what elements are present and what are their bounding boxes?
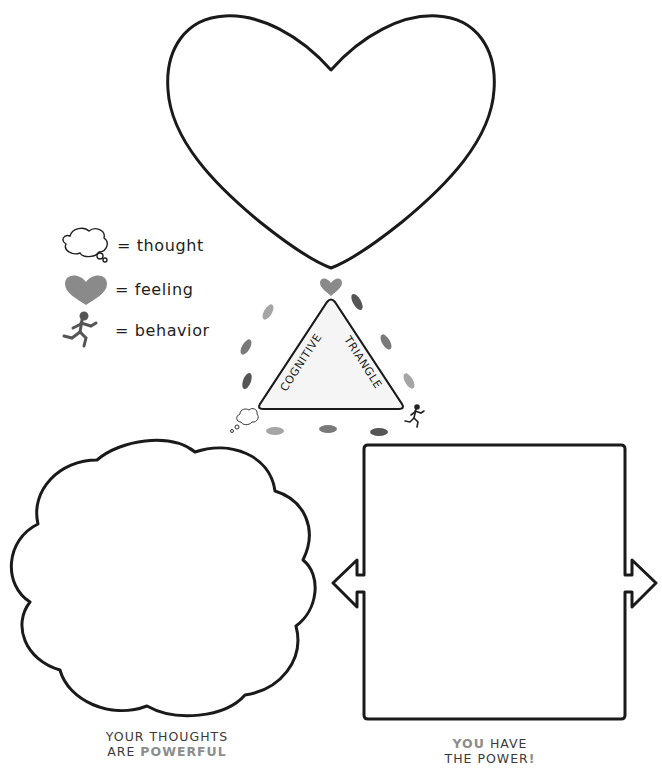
worksheet-canvas [0, 0, 662, 777]
behavior-box-area[interactable] [333, 445, 656, 719]
legend-heart-icon [65, 275, 107, 305]
thought-cloud-area[interactable] [11, 440, 315, 715]
caption-thoughts-prefix: ARE [107, 744, 140, 759]
caption-power-text: THE POWER [445, 751, 529, 766]
caption-power: YOU HAVE THE POWER! [420, 736, 560, 766]
legend-thought-label: = thought [117, 238, 204, 254]
legend-behavior-label: = behavior [115, 323, 210, 339]
triangle-runner-icon [405, 405, 424, 427]
caption-power-rest: HAVE [485, 736, 528, 751]
triangle-heart-icon [320, 279, 342, 297]
legend-runner-icon [64, 313, 96, 346]
caption-power-highlight-you: YOU [453, 736, 485, 751]
triangle-thought-icon [231, 409, 259, 433]
caption-thoughts-highlight: POWERFUL [140, 744, 226, 759]
caption-power-line1: YOU HAVE [420, 736, 560, 751]
footprints-left [238, 303, 275, 391]
feeling-heart-area[interactable] [168, 16, 495, 268]
caption-power-exclaim: ! [529, 751, 536, 766]
caption-thoughts-line1: YOUR THOUGHTS [92, 729, 242, 744]
legend-thought-cloud-icon [63, 228, 107, 262]
caption-thoughts-line2: ARE POWERFUL [92, 744, 242, 759]
caption-thoughts: YOUR THOUGHTS ARE POWERFUL [92, 729, 242, 759]
footprints-bottom [266, 425, 388, 436]
legend-feeling-label: = feeling [115, 282, 193, 298]
caption-power-line2: THE POWER! [420, 751, 560, 766]
cognitive-triangle [259, 300, 403, 410]
